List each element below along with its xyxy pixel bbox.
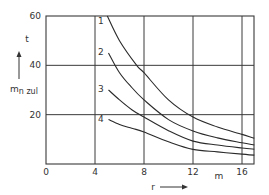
curve-3 [109, 90, 255, 149]
curve-label-2: 2 [98, 47, 104, 57]
curve-label-1: 1 [98, 16, 104, 26]
y-axis-label-subscript: n zul [19, 87, 38, 96]
y-tick-labels: 204060 [30, 11, 42, 120]
y-tick-label: 20 [30, 110, 42, 120]
grid [46, 16, 254, 164]
x-axis-unit: m [215, 171, 224, 181]
curve-label-4: 4 [98, 114, 104, 124]
x-tick-label: 8 [141, 167, 147, 177]
x-tick-label: 4 [92, 167, 98, 177]
plot-frame [46, 16, 254, 164]
x-axis-arrowhead-icon [182, 185, 188, 190]
y-axis-label: m [10, 84, 19, 94]
svg-text:mn zul: mn zul [10, 84, 38, 96]
curve-label-3: 3 [98, 84, 104, 94]
curve-1 [107, 16, 254, 138]
x-tick-label: 0 [43, 167, 49, 177]
x-axis-label: r [151, 182, 155, 192]
y-axis-arrowhead-icon [17, 51, 22, 57]
y-tick-label: 60 [30, 11, 42, 21]
curve-4 [109, 120, 255, 156]
y-tick-label: 40 [30, 60, 42, 70]
curve-labels: 1234 [98, 16, 104, 124]
chart: 1234 0481216 204060 t mn zul m r [0, 0, 269, 195]
x-tick-label: 16 [236, 167, 248, 177]
y-axis-unit: t [25, 34, 29, 44]
x-tick-label: 12 [187, 167, 198, 177]
curves [107, 16, 254, 155]
